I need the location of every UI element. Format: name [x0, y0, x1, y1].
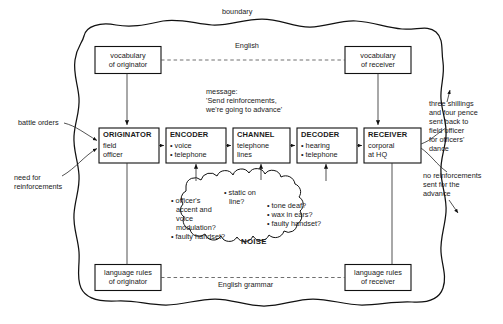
english-grammar-label: English grammar: [218, 281, 273, 290]
noise-label: NOISE: [241, 237, 267, 246]
language-rules-originator-line2: of originator: [95, 278, 161, 287]
decoder-heading: DECODER: [301, 131, 339, 140]
vocabulary-receiver-line2: of receiver: [345, 61, 411, 70]
decoder-line2: • telephone: [301, 151, 338, 160]
channel-line2: lines: [237, 151, 252, 160]
receiver-line2: at HQ: [368, 151, 387, 160]
boundary-label: boundary: [222, 8, 252, 17]
message-line2: we're going to advance': [206, 106, 282, 115]
receiver-heading: RECEIVER: [368, 131, 407, 140]
vocabulary-originator-line2: of originator: [95, 61, 161, 70]
english-label: English: [235, 42, 259, 51]
encoder-heading: ENCODER: [170, 131, 208, 140]
noise-middle-line2: line?: [229, 198, 244, 207]
battle-orders-label: battle orders: [18, 119, 59, 128]
channel-heading: CHANNEL: [237, 131, 275, 140]
language-rules-receiver-line2: of receiver: [345, 278, 411, 287]
originator-heading: ORIGINATOR: [103, 131, 151, 140]
originator-line2: officer: [103, 151, 123, 160]
no-reinforcements-line3: advance: [423, 190, 451, 199]
noise-left-line5: • faulty handset?: [171, 233, 225, 242]
three-shillings-line6: dance: [429, 145, 449, 154]
diagram-canvas: boundary English vocabulary of originato…: [0, 0, 503, 324]
noise-right-line3: • faulty handset?: [267, 220, 321, 229]
need-for-reinforcements-line2: reinforcements: [14, 183, 62, 192]
encoder-line2: • telephone: [170, 151, 207, 160]
